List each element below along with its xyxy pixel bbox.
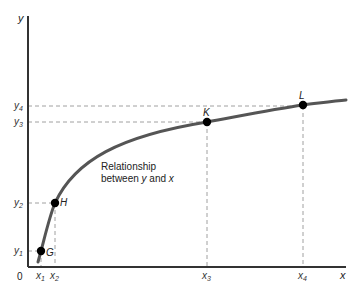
annotation-line-2: between y and x <box>101 173 175 184</box>
relationship-chart: G H K L y x 0 y1 y2 y3 y4 x1 x2 x3 x4 Re… <box>0 0 360 292</box>
point-l <box>299 101 307 109</box>
point-label-k: K <box>203 107 211 118</box>
annotation-line-1: Relationship <box>101 161 156 172</box>
point-h <box>51 199 59 207</box>
point-label-l: L <box>299 90 305 101</box>
point-g <box>37 247 45 255</box>
point-k <box>203 118 211 126</box>
point-label-g: G <box>46 247 54 258</box>
x-tick-1: x1 <box>35 270 45 282</box>
x-tick-4: x4 <box>297 270 307 282</box>
y-tick-2: y2 <box>13 197 23 209</box>
x-axis-label: x <box>339 269 346 281</box>
point-label-h: H <box>60 197 68 208</box>
y-tick-1: y1 <box>13 245 23 257</box>
x-tick-3: x3 <box>201 270 211 282</box>
y-tick-3: y3 <box>13 116 23 128</box>
origin-label: 0 <box>17 271 23 282</box>
y-tick-4: y4 <box>13 100 23 112</box>
x-tick-2: x2 <box>49 270 59 282</box>
y-axis-label: y <box>17 12 25 24</box>
relationship-curve <box>38 100 346 262</box>
